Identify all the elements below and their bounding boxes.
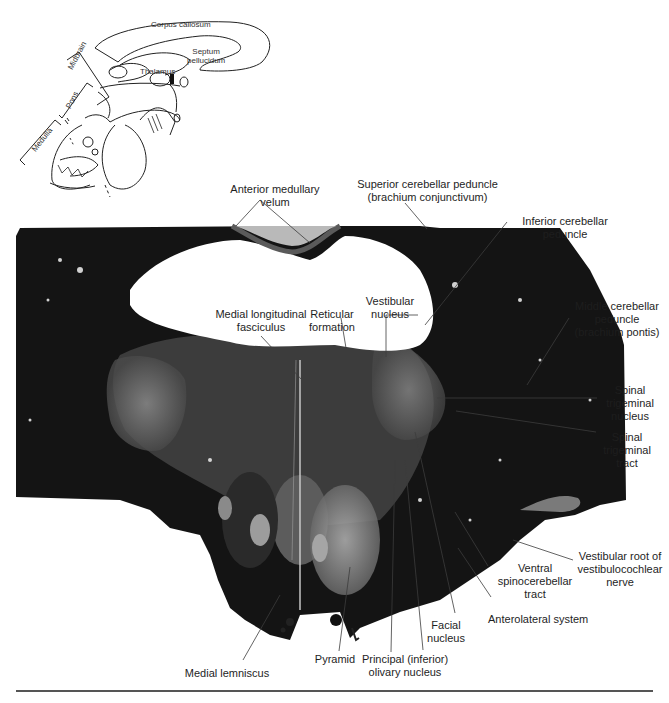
label-ventral-spinocerebellar-tract: Ventral spinocerebellar tract [495, 562, 575, 601]
label-vestibular-root: Vestibular root of vestibulocochlear ner… [570, 550, 669, 589]
label-facial-nucleus: Facial nucleus [416, 619, 476, 645]
label-septum-pellucidum: Septum pellucidum [187, 47, 225, 65]
label-anterior-medullary-velum: Anterior medullary velum [225, 183, 325, 209]
label-middle-cerebellar-peduncle: Middle cerebellar peduncle (brachium pon… [565, 300, 669, 339]
label-corpus-callosum: Corpus callosum [151, 20, 211, 29]
anatomy-figure: Corpus callosum Septum pellucidum Thalam… [0, 0, 669, 703]
label-pyramid: Pyramid [305, 653, 365, 666]
label-superior-cerebellar-peduncle: Superior cerebellar peduncle (brachium c… [340, 178, 515, 204]
label-spinal-trigeminal-nucleus: Spinal trigeminal nucleus [600, 384, 660, 423]
label-inferior-cerebellar-peduncle: Inferior cerebellar peduncle [510, 215, 620, 241]
label-anterolateral-system: Anterolateral system [488, 613, 618, 626]
caption-divider [16, 690, 653, 692]
label-medial-lemniscus: Medial lemniscus [172, 667, 282, 680]
label-spinal-trigeminal-tract: Spinal trigeminal tract [597, 431, 657, 470]
label-vestibular-nucleus: Vestibular nucleus [350, 295, 430, 321]
label-thalamus: Thalamus [140, 67, 175, 76]
sagittal-inset-drawing [20, 22, 270, 197]
